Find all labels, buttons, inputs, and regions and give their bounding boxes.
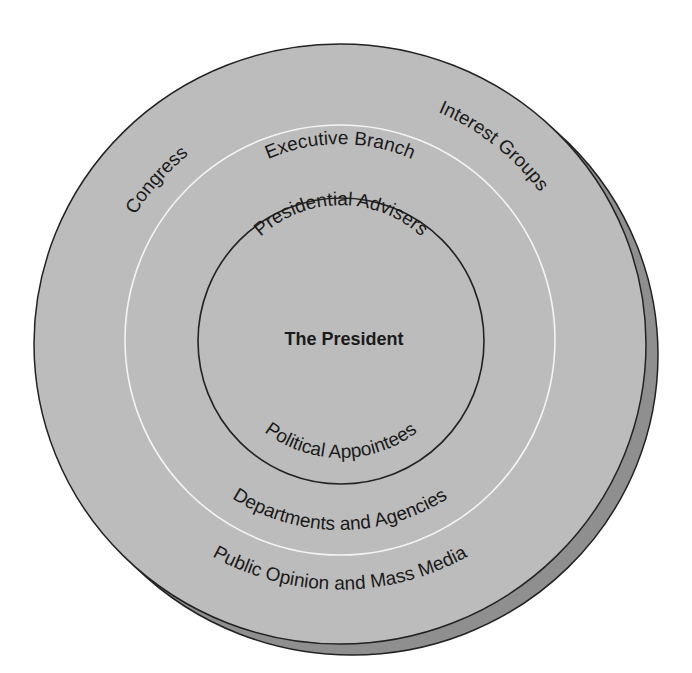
president-influence-diagram: Congress Interest Groups Public Opinion …	[0, 0, 692, 673]
label-the-president: The President	[284, 329, 403, 349]
